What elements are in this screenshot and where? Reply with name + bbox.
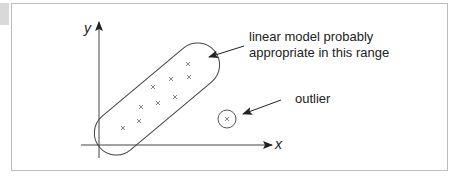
outlier-arrow [243, 100, 281, 114]
outlier-point [225, 117, 229, 121]
linear-range-label-line2: appropriate in this range [249, 45, 389, 60]
y-axis-label: y [83, 20, 92, 36]
data-points [121, 62, 191, 130]
outlier-label: outlier [295, 91, 331, 106]
linear-range-arrow [209, 46, 244, 57]
x-axis-label: x [274, 136, 283, 152]
linear-range-label-line1: linear model probably [249, 29, 374, 44]
scatter-diagram: y x linear model probably appropriate in… [0, 0, 455, 179]
